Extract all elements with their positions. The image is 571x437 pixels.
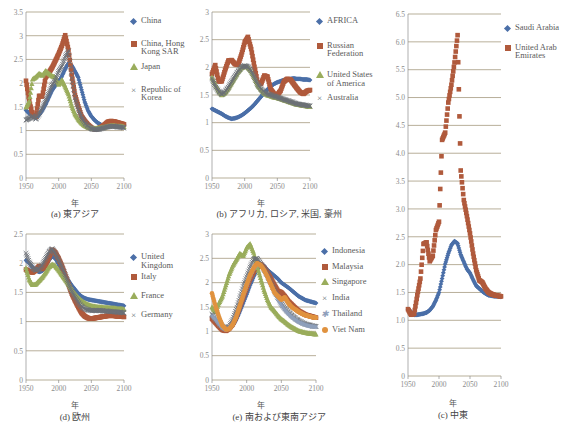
triangle-marker-icon: [314, 71, 325, 80]
square-marker-icon: [319, 263, 330, 272]
svg-text:5.5: 5.5: [396, 65, 406, 74]
svg-text:1950: 1950: [401, 380, 416, 389]
svg-text:1.0: 1.0: [396, 316, 406, 325]
square-marker-icon: [502, 44, 513, 53]
legend-item-indonesia[interactable]: Indonesia: [319, 246, 379, 255]
legend-label: Thailand: [332, 309, 362, 318]
svg-text:2.5: 2.5: [200, 254, 210, 263]
svg-text:0.5: 0.5: [14, 347, 24, 356]
legend-d: United Kingdom Italy France × Germany: [128, 252, 188, 321]
svg-text:3.5: 3.5: [14, 8, 24, 17]
legend-label: United States of America: [327, 70, 378, 87]
legend-item-vietnam[interactable]: Viet Nam: [319, 325, 379, 334]
svg-text:2.5: 2.5: [14, 55, 24, 64]
svg-text:1: 1: [205, 327, 209, 336]
legend-item-germany[interactable]: × Germany: [128, 310, 188, 319]
svg-text:1.5: 1.5: [14, 288, 24, 297]
legend-label: Viet Nam: [332, 325, 365, 334]
diamond-marker-icon: [128, 253, 139, 262]
legend-item-russia[interactable]: Russian Federation: [314, 41, 378, 58]
svg-text:2100: 2100: [309, 384, 324, 393]
svg-text:1950: 1950: [205, 384, 220, 393]
panel-caption-d: (d) 欧州: [10, 410, 140, 423]
diamond-marker-icon: [128, 17, 139, 26]
legend-item-italy[interactable]: Italy: [128, 272, 188, 281]
panel-caption-c: (c) 中東: [388, 408, 518, 421]
diamond-marker-icon: [502, 24, 513, 33]
chart-panel-b: 00.511.522.531950200020502100 AFRICA Rus…: [186, 0, 378, 215]
legend-item-singapore[interactable]: Singapore: [319, 277, 379, 286]
svg-text:4.5: 4.5: [396, 121, 406, 130]
legend-label: China, Hong Kong SAR: [141, 39, 190, 56]
x-axis-label-e: 年: [206, 399, 316, 410]
svg-text:3.5: 3.5: [396, 177, 406, 186]
x-axis-label-d: 年: [20, 399, 130, 410]
legend-item-india[interactable]: × India: [319, 293, 379, 302]
chart-panel-d: 00.511.522.51950200020502100 United King…: [0, 222, 186, 437]
svg-text:0.5: 0.5: [14, 150, 24, 159]
legend-item-malaysia[interactable]: Malaysia: [319, 262, 379, 271]
svg-text:2000: 2000: [239, 384, 254, 393]
legend-label: Germany: [141, 310, 173, 319]
svg-text:6.0: 6.0: [396, 38, 406, 47]
chart-panel-c: 00.51.01.52.02.53.03.54.04.55.05.56.06.5…: [378, 0, 571, 437]
panel-caption-e: (e) 南および東南アジア: [184, 410, 374, 423]
legend-item-thailand[interactable]: ✱ Thailand: [319, 309, 379, 318]
svg-text:2: 2: [205, 63, 209, 72]
panel-caption-a: (a) 東アジア: [10, 207, 140, 220]
svg-text:1.5: 1.5: [200, 303, 210, 312]
svg-text:3.0: 3.0: [396, 205, 406, 214]
svg-text:4.0: 4.0: [396, 149, 406, 158]
legend-label: Malaysia: [332, 262, 363, 271]
panel-caption-b: (b) アフリカ, ロシア, 米国, 豪州: [184, 207, 374, 220]
diamond-marker-icon: [314, 17, 325, 26]
svg-text:1950: 1950: [19, 182, 34, 191]
circle-marker-icon: [319, 326, 330, 335]
triangle-marker-icon: [319, 278, 330, 287]
legend-label: Republic of Korea: [141, 85, 190, 102]
legend-label: Australia: [327, 93, 358, 102]
svg-text:6.5: 6.5: [396, 10, 406, 19]
svg-text:2: 2: [19, 79, 23, 88]
legend-item-korea[interactable]: × Republic of Korea: [128, 85, 190, 102]
legend-item-uk[interactable]: United Kingdom: [128, 252, 188, 269]
legend-item-uae[interactable]: United Arab Emirates: [502, 43, 568, 60]
cross-marker-icon: ×: [128, 311, 139, 320]
legend-item-australia[interactable]: × Australia: [314, 93, 378, 102]
cross-marker-icon: ×: [128, 86, 139, 95]
legend-label: Indonesia: [332, 246, 365, 255]
svg-text:2050: 2050: [274, 384, 289, 393]
svg-text:2050: 2050: [84, 384, 99, 393]
legend-item-usa[interactable]: United States of America: [314, 70, 378, 87]
legend-b: AFRICA Russian Federation United States …: [314, 16, 378, 104]
svg-text:2100: 2100: [117, 182, 132, 191]
triangle-marker-icon: [128, 63, 139, 72]
svg-text:2050: 2050: [270, 182, 285, 191]
legend-label: AFRICA: [327, 16, 358, 25]
legend-item-japan[interactable]: Japan: [128, 62, 190, 71]
svg-text:3: 3: [205, 230, 209, 239]
svg-text:1: 1: [19, 317, 23, 326]
svg-text:3: 3: [19, 32, 23, 41]
legend-item-hong-kong[interactable]: China, Hong Kong SAR: [128, 39, 190, 56]
legend-label: Japan: [141, 62, 160, 71]
legend-label: Saudi Arabia: [515, 23, 559, 32]
x-axis-label-c: 年: [398, 397, 508, 408]
legend-item-saudi-arabia[interactable]: Saudi Arabia: [502, 23, 568, 32]
legend-label: Russian Federation: [327, 41, 378, 58]
legend-item-africa[interactable]: AFRICA: [314, 16, 378, 25]
svg-text:2000: 2000: [432, 380, 447, 389]
svg-text:1950: 1950: [205, 182, 220, 191]
svg-text:1.5: 1.5: [200, 91, 210, 100]
legend-item-china[interactable]: China: [128, 16, 190, 25]
svg-text:2050: 2050: [84, 182, 99, 191]
svg-text:1.5: 1.5: [14, 103, 24, 112]
legend-label: China: [141, 16, 161, 25]
legend-a: China China, Hong Kong SAR Japan × Repub…: [128, 16, 190, 104]
svg-text:2100: 2100: [494, 380, 509, 389]
legend-item-france[interactable]: France: [128, 291, 188, 300]
svg-text:0.5: 0.5: [200, 146, 210, 155]
triangle-marker-icon: [128, 292, 139, 301]
square-marker-icon: [128, 273, 139, 282]
svg-text:1.5: 1.5: [396, 288, 406, 297]
